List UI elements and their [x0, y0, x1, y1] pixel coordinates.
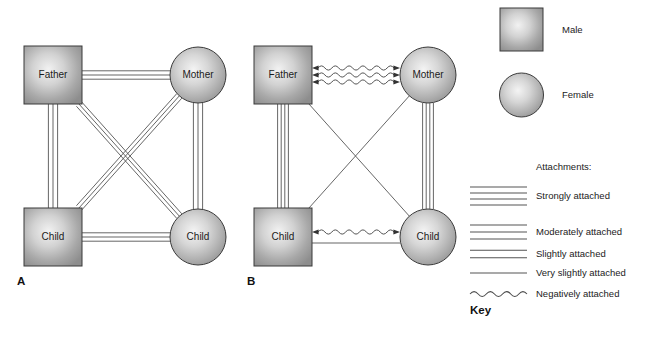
attachments-title: Attachments:	[536, 161, 591, 172]
attachment-line	[309, 104, 409, 216]
legend-label-negatively: Negatively attached	[536, 288, 619, 299]
arrowhead-left	[312, 229, 319, 234]
negative-attachment-wave	[318, 66, 394, 70]
legend-female: Female	[500, 73, 594, 117]
arrowhead-left	[312, 72, 319, 77]
legend-row-strongly: Strongly attached	[470, 187, 610, 205]
female-shape	[400, 47, 456, 103]
arrowhead-right	[393, 65, 400, 70]
node-a-mother[interactable]: Mother	[170, 47, 226, 103]
legend-row-very_slightly: Very slightly attached	[470, 267, 626, 278]
negative-attachment-wave	[318, 230, 394, 234]
negative-attachment-wave	[318, 73, 394, 77]
male-shape	[254, 208, 312, 266]
panel-b-letter: B	[247, 275, 255, 287]
male-swatch	[500, 8, 543, 51]
attachment-diagram-svg: FatherMotherChildChildA FatherMotherChil…	[0, 0, 647, 339]
legend-male-label: Male	[562, 24, 583, 35]
legend-row-negatively: Negatively attached	[470, 288, 619, 299]
attachment-line	[81, 102, 181, 214]
legend-label-slightly: Slightly attached	[536, 248, 606, 259]
attachment-line	[309, 96, 409, 208]
node-b-father[interactable]: Father	[254, 46, 312, 104]
legend-label-moderately: Moderately attached	[536, 226, 622, 237]
figure-canvas: FatherMotherChildChildA FatherMotherChil…	[0, 0, 647, 339]
female-shape	[170, 47, 226, 103]
legend-label-very_slightly: Very slightly attached	[536, 267, 626, 278]
node-b-mother[interactable]: Mother	[400, 47, 456, 103]
male-shape	[24, 46, 82, 104]
node-a-child_right[interactable]: Child	[170, 209, 226, 265]
legend-male: Male	[500, 8, 583, 51]
panel-a: FatherMotherChildChildA	[17, 46, 226, 287]
key-legend: MaleFemaleAttachments:Strongly attachedM…	[470, 8, 626, 316]
arrowhead-right	[393, 72, 400, 77]
legend-label-strongly: Strongly attached	[536, 190, 610, 201]
child-child-negative	[312, 229, 400, 243]
node-a-father[interactable]: Father	[24, 46, 82, 104]
panel-a-letter: A	[17, 275, 25, 287]
attachment-line	[79, 104, 179, 216]
key-label: Key	[470, 304, 492, 316]
node-b-child_left[interactable]: Child	[254, 208, 312, 266]
attachment-line	[76, 94, 176, 206]
father-mother-negative	[312, 65, 400, 84]
attachment-line	[81, 98, 181, 210]
legend-row-slightly: Slightly attached	[470, 248, 606, 259]
arrowhead-left	[312, 65, 319, 70]
male-shape	[254, 46, 312, 104]
arrowhead-right	[393, 229, 400, 234]
arrowhead-right	[393, 79, 400, 84]
legend-swatch-wavy	[470, 292, 527, 297]
negative-attachment-wave	[318, 80, 394, 84]
female-swatch	[500, 73, 544, 117]
panel-b: FatherMotherChildChildB	[247, 46, 456, 287]
female-shape	[170, 209, 226, 265]
node-b-child_right[interactable]: Child	[400, 209, 456, 265]
node-a-child_left[interactable]: Child	[24, 208, 82, 266]
legend-female-label: Female	[562, 89, 594, 100]
legend-row-moderately: Moderately attached	[470, 225, 622, 239]
arrowhead-left	[312, 79, 319, 84]
attachment-line	[76, 106, 176, 218]
male-shape	[24, 208, 82, 266]
attachment-line	[79, 96, 179, 208]
female-shape	[400, 209, 456, 265]
